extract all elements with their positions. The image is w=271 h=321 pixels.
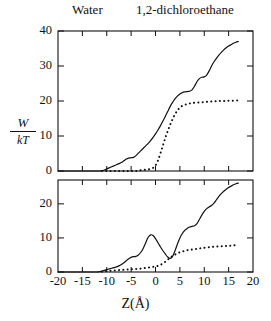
legend-label-water: Water (72, 1, 103, 19)
x-tick-label-15: 15 (216, 275, 242, 288)
figure-panel-group: Water 1,2-dichloroethane W kT Z(Å) 40302… (0, 0, 271, 321)
y-tick-label-top-0: 0 (26, 164, 52, 177)
y-tick-label-top-30: 30 (26, 59, 52, 72)
panel-bottom (58, 180, 253, 272)
y-tick-label-bottom-20: 20 (26, 197, 52, 210)
series-water (58, 42, 238, 172)
x-tick-label-10: 10 (191, 275, 217, 288)
x-axis-title: Z(Å) (0, 296, 271, 312)
x-tick-label-20: 20 (240, 275, 266, 288)
y-tick-label-top-20: 20 (26, 94, 52, 107)
x-tick-label-5: 5 (167, 275, 193, 288)
x-tick-label--20: -20 (45, 275, 71, 288)
x-tick-label--10: -10 (94, 275, 120, 288)
y-tick-label-top-10: 10 (26, 129, 52, 142)
series-water (58, 183, 238, 272)
x-tick-label-0: 0 (143, 275, 169, 288)
x-tick-label--5: -5 (118, 275, 144, 288)
y-tick-label-bottom-10: 10 (26, 231, 52, 244)
y-tick-label-top-40: 40 (26, 24, 52, 37)
x-tick-label--15: -15 (69, 275, 95, 288)
y-axis-label-numerator: W (10, 116, 36, 130)
legend: Water 1,2-dichloroethane (0, 1, 271, 21)
panel-top (58, 31, 253, 171)
panel-frame (58, 180, 253, 272)
series-dichloroethane (102, 100, 239, 171)
legend-label-dichloroethane: 1,2-dichloroethane (136, 1, 234, 19)
